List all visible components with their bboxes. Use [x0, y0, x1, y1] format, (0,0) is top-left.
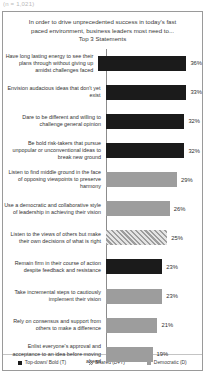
bar — [106, 114, 184, 129]
bar-row: Remain firm in their course of action de… — [3, 252, 202, 281]
bar-track: 29% — [104, 165, 202, 194]
bar-row: Dare to be different and willing to chal… — [3, 107, 202, 136]
bar-row: Have long lasting energy to see their pl… — [3, 49, 202, 78]
bar-track: 26% — [104, 194, 202, 223]
bar-row: Rely on consensus and support from other… — [3, 311, 202, 340]
bar — [106, 85, 187, 100]
chart-title-line-2: paced environment, business leaders most… — [13, 27, 192, 36]
chart-title-line-3: Top 3 Statements — [13, 35, 192, 44]
bar-category-label: Enlist everyone's approval and acceptanc… — [3, 343, 104, 365]
bar-track: 32% — [104, 136, 202, 165]
bar — [106, 172, 177, 187]
bar — [106, 201, 170, 216]
bar-value-label: 23% — [166, 264, 178, 270]
bar-track: 33% — [104, 78, 202, 107]
bar — [98, 56, 186, 71]
bar-category-label: Listen to the views of others but make t… — [3, 231, 104, 245]
plot-area: Have long lasting energy to see their pl… — [3, 49, 202, 354]
bar — [106, 289, 162, 304]
chart-title: In order to drive unprecedented success … — [13, 18, 192, 44]
bar — [106, 318, 157, 333]
chart-container: In order to drive unprecedented success … — [2, 11, 203, 371]
bar-value-label: 36% — [190, 60, 202, 66]
bar-track: 25% — [104, 223, 202, 252]
clipped-header-text: (n = 1,021) — [3, 0, 83, 9]
bar-value-label: 29% — [181, 177, 193, 183]
bar-track: 21% — [104, 311, 202, 340]
bar-value-label: 23% — [166, 293, 178, 299]
bar — [106, 347, 153, 362]
bar-category-label: Have long lasting energy to see their pl… — [3, 53, 96, 75]
bar-row: Envision audacious ideas that don't yet … — [3, 78, 202, 107]
bar-row: Listen to find middle ground in the face… — [3, 165, 202, 194]
bar-row: Listen to the views of others but make t… — [3, 223, 202, 252]
bar-category-label: Rely on consensus and support from other… — [3, 318, 104, 332]
bar-category-label: Be bold risk-takers that pursue unpopula… — [3, 140, 104, 162]
bar-track: 23% — [104, 282, 202, 311]
bar-track: 36% — [96, 49, 202, 78]
bar-value-label: 32% — [188, 118, 200, 124]
bar-track: 32% — [104, 107, 202, 136]
bar-value-label: 25% — [171, 235, 183, 241]
bar — [106, 143, 184, 158]
bar-value-label: 19% — [157, 351, 169, 357]
bar-value-label: 26% — [174, 206, 186, 212]
chart-title-line-1: In order to drive unprecedented success … — [13, 18, 192, 27]
bar-category-label: Remain firm in their course of action de… — [3, 260, 104, 274]
bar-row: Enlist everyone's approval and acceptanc… — [3, 340, 202, 369]
bar-row: Take incremental steps to cautiously imp… — [3, 282, 202, 311]
bar-value-label: 21% — [161, 322, 173, 328]
bar-track: 19% — [104, 340, 202, 369]
bar-category-label: Dare to be different and willing to chal… — [3, 114, 104, 128]
bar-track: 23% — [104, 252, 202, 281]
bar-value-label: 33% — [190, 89, 202, 95]
bar-row: Be bold risk-takers that pursue unpopula… — [3, 136, 202, 165]
bar-category-label: Listen to find middle ground in the face… — [3, 169, 104, 191]
bar — [106, 230, 167, 245]
bar — [106, 259, 162, 274]
bar-category-label: Envision audacious ideas that don't yet … — [3, 85, 104, 99]
bar-row: Use a democratic and collaborative style… — [3, 194, 202, 223]
bar-category-label: Use a democratic and collaborative style… — [3, 202, 104, 216]
bar-value-label: 32% — [188, 148, 200, 154]
bar-category-label: Take incremental steps to cautiously imp… — [3, 289, 104, 303]
